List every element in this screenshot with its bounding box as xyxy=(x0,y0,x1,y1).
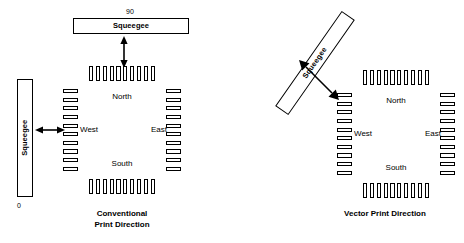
pad-column-east xyxy=(440,93,455,175)
pad xyxy=(384,183,388,198)
pad xyxy=(110,66,114,81)
pad xyxy=(418,183,422,198)
pad xyxy=(337,136,352,140)
pad xyxy=(390,70,394,85)
pad xyxy=(116,66,120,81)
pad xyxy=(151,179,155,194)
pad xyxy=(166,149,181,153)
pad xyxy=(370,183,374,198)
pad xyxy=(151,66,155,81)
pad xyxy=(110,179,114,194)
pad xyxy=(89,66,93,81)
double-arrow-diagonal-icon xyxy=(299,60,339,100)
pad xyxy=(103,66,107,81)
compass-label-east: East xyxy=(425,130,441,138)
pad-column-west xyxy=(63,89,78,171)
pad xyxy=(404,70,408,85)
pad xyxy=(166,141,181,145)
pad xyxy=(337,153,352,157)
pad xyxy=(384,70,388,85)
squeegee-left-vertical: Squeegee xyxy=(17,79,33,197)
pad xyxy=(337,119,352,123)
angle-tick-90: 90 xyxy=(126,8,134,15)
pad xyxy=(116,179,120,194)
compass-label-south: South xyxy=(63,160,181,168)
pad xyxy=(418,70,422,85)
pad xyxy=(89,179,93,194)
double-arrow-vertical-icon xyxy=(118,36,130,68)
pad xyxy=(130,179,134,194)
pad xyxy=(166,115,181,119)
pad xyxy=(377,70,381,85)
pad xyxy=(144,66,148,81)
pad xyxy=(63,115,78,119)
pad-row-south xyxy=(363,183,429,198)
compass-label-west: West xyxy=(80,126,98,134)
diagram-canvas: 90 Squeegee Squeegee 0 xyxy=(0,0,464,243)
pad xyxy=(411,70,415,85)
pad xyxy=(363,183,367,198)
chip-footprint-conventional: North West East South xyxy=(63,66,181,194)
compass-label-north: North xyxy=(337,97,455,105)
pad xyxy=(440,110,455,114)
pad xyxy=(337,128,352,132)
pad xyxy=(103,179,107,194)
pad xyxy=(411,183,415,198)
caption-vector: Vector Print Direction xyxy=(325,208,445,219)
compass-label-east: East xyxy=(151,126,167,134)
pad xyxy=(63,149,78,153)
caption-conventional-line1: Conventional xyxy=(62,208,182,219)
caption-vector-line1: Vector Print Direction xyxy=(325,208,445,219)
pad xyxy=(440,145,455,149)
pad xyxy=(337,110,352,114)
pad-column-east xyxy=(166,89,181,171)
pad xyxy=(337,145,352,149)
pad xyxy=(440,128,455,132)
pad xyxy=(63,141,78,145)
pad xyxy=(166,124,181,128)
caption-conventional: Conventional Print Direction xyxy=(62,208,182,230)
pad xyxy=(425,70,429,85)
pad xyxy=(370,70,374,85)
compass-label-south: South xyxy=(337,164,455,172)
squeegee-top-horizontal: Squeegee xyxy=(73,18,189,34)
caption-conventional-line2: Print Direction xyxy=(62,219,182,230)
pad xyxy=(390,183,394,198)
squeegee-top-label: Squeegee xyxy=(113,22,149,30)
pad xyxy=(137,179,141,194)
pad-row-south xyxy=(89,179,155,194)
compass-label-west: West xyxy=(354,130,372,138)
double-arrow-horizontal-icon xyxy=(35,124,65,136)
pad xyxy=(130,66,134,81)
pad xyxy=(440,119,455,123)
pad xyxy=(377,183,381,198)
pad xyxy=(144,179,148,194)
angle-tick-0: 0 xyxy=(17,202,21,209)
pad xyxy=(123,179,127,194)
pad xyxy=(166,106,181,110)
pad xyxy=(440,136,455,140)
pad xyxy=(137,66,141,81)
pad xyxy=(96,66,100,81)
pad xyxy=(397,70,401,85)
pad xyxy=(96,179,100,194)
pad-column-west xyxy=(337,93,352,175)
pad-row-north xyxy=(363,70,429,85)
pad xyxy=(425,183,429,198)
pad-row-north xyxy=(89,66,155,81)
pad xyxy=(63,132,78,136)
pad xyxy=(397,183,401,198)
pad xyxy=(63,124,78,128)
pad xyxy=(63,106,78,110)
pad xyxy=(123,66,127,81)
pad xyxy=(363,70,367,85)
chip-footprint-vector: North West East South xyxy=(337,70,455,198)
pad xyxy=(166,132,181,136)
pad xyxy=(404,183,408,198)
squeegee-left-label: Squeegee xyxy=(21,120,29,156)
pad xyxy=(440,153,455,157)
compass-label-north: North xyxy=(63,93,181,101)
